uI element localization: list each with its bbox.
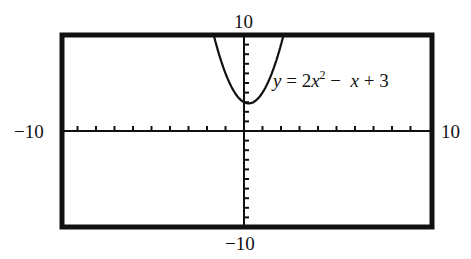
equation-label: y = 2x2 − x + 3 <box>273 69 389 90</box>
eq-rest: + 3 <box>359 70 389 91</box>
x-min-label: −10 <box>14 122 44 141</box>
eq-minus: − <box>326 70 351 91</box>
y-min-label: −10 <box>225 234 255 253</box>
eq-part: = 2 <box>281 70 311 91</box>
x-max-label: 10 <box>441 122 460 141</box>
eq-x1: x <box>311 70 319 91</box>
y-max-label: 10 <box>234 12 253 31</box>
eq-x2: x <box>351 70 359 91</box>
graph-canvas <box>0 0 471 259</box>
